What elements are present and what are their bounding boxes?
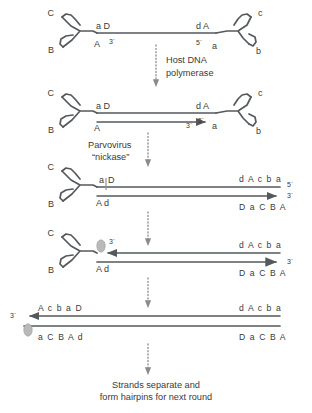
stage-4-left-arm-bottom-label: B	[48, 265, 54, 275]
stage-2-right-hairpin-bottom-loop	[249, 114, 256, 126]
stage-2-arrow-prime-label: 3´	[186, 122, 192, 129]
stage-2-right-arm-top-label: c	[258, 88, 263, 98]
stage-2-left-top-sequence: a D	[96, 101, 111, 111]
stage-5-left-top-sequence: A c b a D	[38, 303, 83, 313]
stage-3-left-bottom-sequence: A d	[96, 198, 109, 208]
replication-diagram: C B c b a D A 3´ d A a 5´ Host DNA polym…	[0, 0, 312, 413]
stage-1-right-hairpin	[216, 17, 251, 44]
stage-2-right-bottom-sequence: a	[212, 121, 217, 131]
stage-2-right-hairpin	[216, 97, 251, 124]
stage-2: C B c b a D A d A a 5´ 3´	[48, 88, 264, 136]
stage-2-left-hairpin	[62, 97, 97, 127]
transition-parvovirus-nickase: Parvovirus “nickase”	[88, 133, 148, 164]
stage-1: C B c b a D A 3´ d A a 5´	[48, 8, 264, 56]
figure-caption: Strands separate and form hairpins for n…	[100, 380, 212, 402]
stage-3-left-arm-bottom-label: B	[48, 199, 54, 209]
stage-3-left-hairpin	[62, 171, 97, 201]
stage-2-left-arm-top-label: C	[48, 88, 55, 98]
stage-1-left-hairpin	[62, 17, 97, 47]
stage-2-right-arm-bottom-label: b	[256, 126, 261, 136]
stage-4-arrow-prime: 3´	[287, 258, 293, 265]
figure-canvas: C B c b a D A 3´ d A a 5´ Host DNA polym…	[0, 0, 312, 413]
stage-5-left-prime-label: 3´	[10, 312, 16, 319]
stage-4-left-prime-label: 3´	[109, 238, 115, 245]
stage-3-left-arm-top-label: C	[48, 162, 55, 172]
stage-4-left-hairpin	[62, 237, 97, 267]
stage-2-left-arm-bottom-label: B	[48, 125, 54, 135]
stage-4-left-bottom-sequence: A d	[96, 264, 109, 274]
stage-5-left-bottom-sequence: a C B A d	[38, 332, 84, 342]
stage-5-right-top-sequence: d A c b a	[239, 303, 282, 313]
caption-line-2: form hairpins for next round	[100, 392, 212, 402]
stage-3-right-top-prime: 5´	[287, 181, 293, 188]
stage-4-right-bottom-sequence: D a C B A	[239, 268, 287, 278]
stage-1-right-hairpin-bottom-loop	[249, 34, 256, 46]
stage-2-right-prime-label: 5´	[198, 117, 204, 124]
stage-3: C B a D A d d A c b a 5´ D a C B A 3´	[48, 162, 294, 212]
stage-1-right-top-sequence: d A	[196, 21, 209, 31]
stage-1-left-arm-bottom-label: B	[48, 45, 54, 55]
stage-1-right-arm-top-label: c	[258, 8, 263, 18]
stage-4-nickase-protein	[97, 240, 105, 252]
stage-3-right-top-sequence: d A c b a	[239, 174, 282, 184]
stage-2-right-top-sequence: d A	[196, 101, 209, 111]
stage-3-arrow-prime: 3´	[287, 192, 293, 199]
stage-1-right-prime-label: 5´	[196, 39, 202, 46]
stage-3-right-bottom-sequence: D a C B A	[239, 202, 287, 212]
stage-1-left-prime-label: 3´	[109, 38, 115, 45]
transition-2-label-line1: Parvovirus	[88, 140, 132, 150]
caption-line-1: Strands separate and	[112, 380, 200, 390]
stage-3-top-before-nick: a	[99, 175, 104, 185]
transition-host-dna-polymerase: Host DNA polymerase	[156, 45, 214, 84]
stage-1-right-arm-bottom-label: b	[256, 46, 261, 56]
transition-1-label-line2: polymerase	[166, 68, 214, 78]
stage-1-left-arm-top-label: C	[48, 8, 55, 18]
stage-4-left-arm-top-label: C	[48, 228, 55, 238]
stage-1-left-top-sequence: a D	[96, 21, 111, 31]
stage-5-right-bottom-sequence: D a C B A	[239, 332, 287, 342]
stage-4-right-top-sequence: d A c b a	[239, 240, 282, 250]
stage-1-right-bottom-sequence: a	[212, 41, 217, 51]
transition-1-label-line1: Host DNA	[166, 55, 208, 65]
stage-1-left-bottom-sequence: A	[94, 39, 100, 49]
transition-2-label-line2: “nickase”	[92, 152, 129, 162]
stage-5: 3´ A c b a D a C B A d d A c b a D a C B…	[10, 303, 287, 342]
stage-5-nickase-protein	[24, 324, 32, 336]
stage-2-left-bottom-sequence: A	[94, 123, 100, 133]
stage-4: C B 3´ A d d A c b a D a C B A 3´	[48, 228, 294, 278]
stage-3-top-after-nick: D	[108, 175, 115, 185]
